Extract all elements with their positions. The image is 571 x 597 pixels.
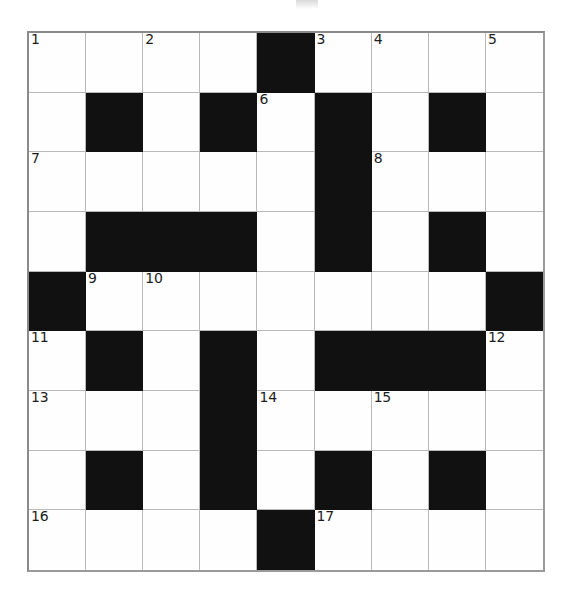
clue-number-3: 3 — [317, 32, 326, 47]
crossword-cell-r4-c9[interactable] — [486, 212, 543, 272]
crossword-cell-r7-c2[interactable] — [86, 391, 143, 451]
crossword-block-r4-c6 — [315, 212, 372, 272]
crossword-block-r2-c4 — [200, 93, 257, 153]
crossword-cell-r4-c1[interactable] — [29, 212, 86, 272]
crossword-cell-r3-c7[interactable]: 8 — [372, 152, 429, 212]
clue-number-9: 9 — [88, 271, 97, 286]
crossword-cell-r2-c5[interactable]: 6 — [257, 93, 314, 153]
crossword-block-r6-c4 — [200, 331, 257, 391]
crossword-cell-r1-c8[interactable] — [429, 33, 486, 93]
crossword-cell-r4-c7[interactable] — [372, 212, 429, 272]
crossword-cell-r1-c4[interactable] — [200, 33, 257, 93]
crossword-block-r7-c4 — [200, 391, 257, 451]
crossword-cell-r5-c2[interactable]: 9 — [86, 272, 143, 332]
crossword-cell-r8-c3[interactable] — [143, 451, 200, 511]
crossword-cell-r1-c2[interactable] — [86, 33, 143, 93]
crossword-cell-r1-c1[interactable]: 1 — [29, 33, 86, 93]
crossword-cell-r7-c7[interactable]: 15 — [372, 391, 429, 451]
crossword-block-r6-c6 — [315, 331, 372, 391]
crossword-grid[interactable]: 1234567891011121314151617 — [27, 31, 545, 572]
crossword-grid-container: 1234567891011121314151617 — [27, 31, 545, 572]
crossword-cell-r3-c3[interactable] — [143, 152, 200, 212]
crossword-cell-r6-c9[interactable]: 12 — [486, 331, 543, 391]
crossword-block-r2-c2 — [86, 93, 143, 153]
crossword-cell-r5-c6[interactable] — [315, 272, 372, 332]
crossword-cell-r9-c7[interactable] — [372, 510, 429, 570]
crossword-page: 1234567891011121314151617 — [0, 0, 571, 597]
crossword-cell-r3-c5[interactable] — [257, 152, 314, 212]
crossword-cell-r2-c1[interactable] — [29, 93, 86, 153]
clue-number-5: 5 — [488, 32, 497, 47]
crossword-cell-r9-c1[interactable]: 16 — [29, 510, 86, 570]
crossword-cell-r5-c8[interactable] — [429, 272, 486, 332]
crossword-cell-r9-c8[interactable] — [429, 510, 486, 570]
clue-number-12: 12 — [488, 330, 505, 345]
crossword-cell-r3-c8[interactable] — [429, 152, 486, 212]
crossword-cell-r1-c7[interactable]: 4 — [372, 33, 429, 93]
crossword-block-r8-c4 — [200, 451, 257, 511]
crossword-cell-r4-c5[interactable] — [257, 212, 314, 272]
crossword-cell-r2-c7[interactable] — [372, 93, 429, 153]
crossword-cell-r7-c6[interactable] — [315, 391, 372, 451]
crossword-cell-r1-c9[interactable]: 5 — [486, 33, 543, 93]
crossword-block-r4-c3 — [143, 212, 200, 272]
crossword-cell-r7-c1[interactable]: 13 — [29, 391, 86, 451]
crossword-cell-r6-c1[interactable]: 11 — [29, 331, 86, 391]
crossword-block-r5-c1 — [29, 272, 86, 332]
crossword-cell-r5-c3[interactable]: 10 — [143, 272, 200, 332]
crossword-cell-r2-c9[interactable] — [486, 93, 543, 153]
crossword-block-r2-c6 — [315, 93, 372, 153]
clue-number-6: 6 — [259, 92, 268, 107]
crossword-cell-r8-c5[interactable] — [257, 451, 314, 511]
clue-number-17: 17 — [317, 509, 334, 524]
crossword-cell-r9-c3[interactable] — [143, 510, 200, 570]
crossword-cell-r9-c4[interactable] — [200, 510, 257, 570]
crossword-block-r8-c8 — [429, 451, 486, 511]
crossword-cell-r5-c4[interactable] — [200, 272, 257, 332]
clue-number-4: 4 — [374, 32, 383, 47]
crossword-cell-r5-c7[interactable] — [372, 272, 429, 332]
crossword-cell-r8-c9[interactable] — [486, 451, 543, 511]
crossword-block-r8-c6 — [315, 451, 372, 511]
crossword-block-r9-c5 — [257, 510, 314, 570]
crossword-block-r5-c9 — [486, 272, 543, 332]
crossword-cell-r2-c3[interactable] — [143, 93, 200, 153]
clue-number-14: 14 — [259, 390, 276, 405]
crossword-block-r4-c2 — [86, 212, 143, 272]
crossword-cell-r7-c3[interactable] — [143, 391, 200, 451]
clue-number-10: 10 — [145, 271, 162, 286]
clue-number-13: 13 — [31, 390, 48, 405]
crossword-cell-r9-c9[interactable] — [486, 510, 543, 570]
crossword-cell-r1-c3[interactable]: 2 — [143, 33, 200, 93]
clue-number-16: 16 — [31, 509, 48, 524]
crossword-cell-r3-c1[interactable]: 7 — [29, 152, 86, 212]
crossword-cell-r9-c6[interactable]: 17 — [315, 510, 372, 570]
clue-number-8: 8 — [374, 151, 383, 166]
crossword-block-r1-c5 — [257, 33, 314, 93]
crossword-cell-r6-c5[interactable] — [257, 331, 314, 391]
clue-number-2: 2 — [145, 32, 154, 47]
crossword-block-r8-c2 — [86, 451, 143, 511]
crossword-cell-r5-c5[interactable] — [257, 272, 314, 332]
crossword-cell-r7-c9[interactable] — [486, 391, 543, 451]
crossword-cell-r6-c3[interactable] — [143, 331, 200, 391]
crossword-block-r6-c2 — [86, 331, 143, 391]
crossword-cell-r9-c2[interactable] — [86, 510, 143, 570]
crossword-block-r2-c8 — [429, 93, 486, 153]
crossword-cell-r8-c1[interactable] — [29, 451, 86, 511]
clue-number-7: 7 — [31, 151, 40, 166]
crossword-block-r3-c6 — [315, 152, 372, 212]
crossword-cell-r7-c8[interactable] — [429, 391, 486, 451]
scan-artifact — [296, 0, 318, 9]
crossword-block-r6-c7 — [372, 331, 429, 391]
crossword-cell-r3-c2[interactable] — [86, 152, 143, 212]
crossword-cell-r7-c5[interactable]: 14 — [257, 391, 314, 451]
crossword-cell-r1-c6[interactable]: 3 — [315, 33, 372, 93]
clue-number-1: 1 — [31, 32, 40, 47]
crossword-block-r4-c4 — [200, 212, 257, 272]
clue-number-11: 11 — [31, 330, 48, 345]
crossword-cell-r3-c4[interactable] — [200, 152, 257, 212]
crossword-block-r6-c8 — [429, 331, 486, 391]
crossword-cell-r8-c7[interactable] — [372, 451, 429, 511]
crossword-cell-r3-c9[interactable] — [486, 152, 543, 212]
